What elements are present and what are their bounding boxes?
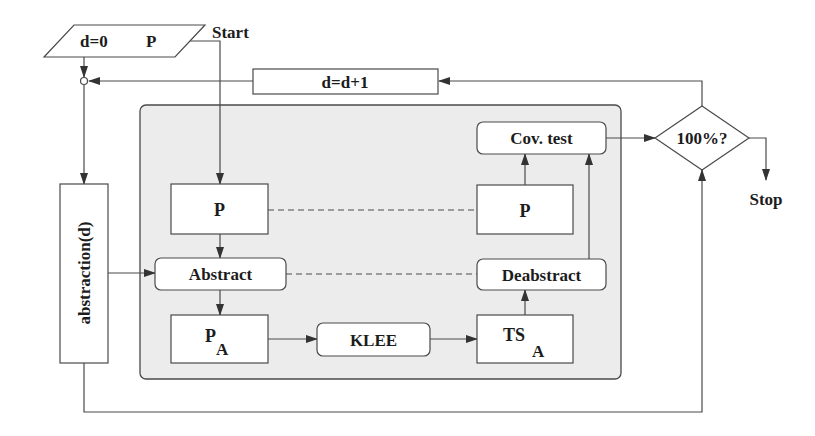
- program-right-label: P: [520, 201, 531, 221]
- flow-diagram: d=0 P Start d=d+1 abstraction(d) P Abstr…: [0, 0, 815, 436]
- test-suite-label: TS: [503, 325, 525, 345]
- input-d-label: d=0: [80, 32, 108, 51]
- test-suite-subscript: A: [532, 342, 545, 361]
- decision-label: 100%?: [677, 129, 728, 148]
- program-left-label: P: [214, 200, 225, 220]
- abstract-program-label: P: [205, 326, 216, 346]
- klee-label: KLEE: [350, 331, 397, 350]
- input-p-label: P: [146, 32, 156, 51]
- abstraction-label: abstraction(d): [75, 222, 94, 325]
- deabstract-label: Deabstract: [502, 266, 582, 285]
- decision-to-increment: [439, 81, 702, 106]
- junction-node: [81, 78, 88, 85]
- stop-label: Stop: [749, 190, 782, 209]
- coverage-test-label: Cov. test: [510, 129, 573, 148]
- increment-label: d=d+1: [322, 73, 369, 92]
- input-parallelogram: d=0 P: [44, 25, 205, 57]
- abstract-program-subscript: A: [216, 340, 229, 359]
- decision-to-stop: [749, 138, 766, 180]
- abstract-label: Abstract: [189, 265, 253, 284]
- start-label: Start: [212, 23, 249, 42]
